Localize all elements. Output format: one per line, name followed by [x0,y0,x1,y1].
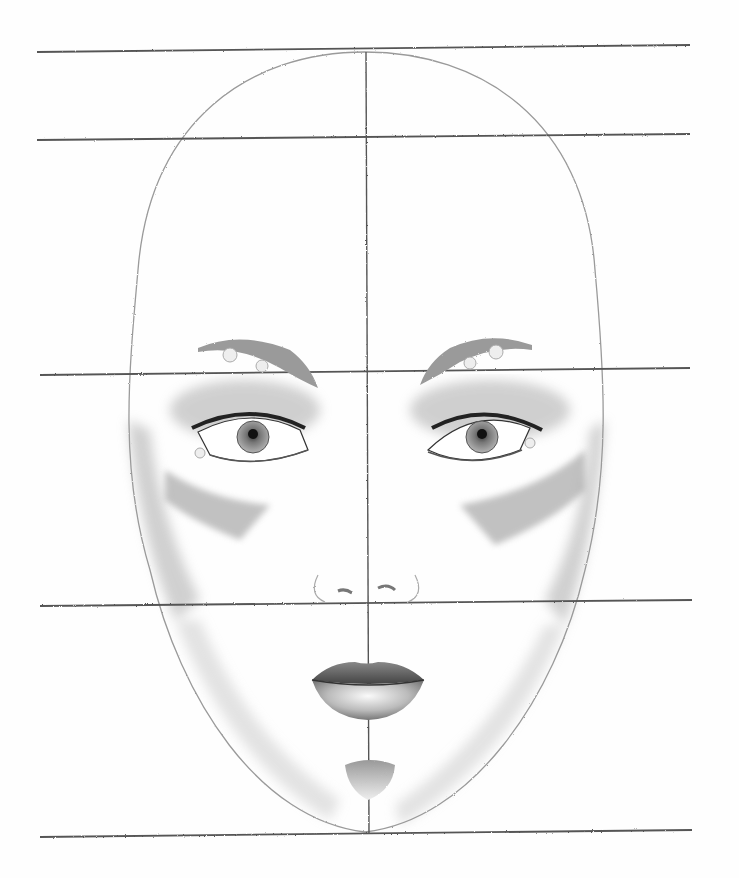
face-proportion-drawing: Pencil drawing of a female face proporti… [0,0,739,878]
guideline-top-of-head [37,45,690,52]
nose [314,575,418,602]
guideline-hairline [37,134,690,140]
right-eye [428,414,542,460]
left-eye [192,414,308,461]
cheek-contour [165,450,585,545]
guideline-nose [40,600,692,606]
lips [312,662,424,720]
drawing-svg [0,0,739,878]
guideline-brow [40,368,690,375]
guideline-chin [40,830,692,837]
chin-shadow [345,760,395,800]
